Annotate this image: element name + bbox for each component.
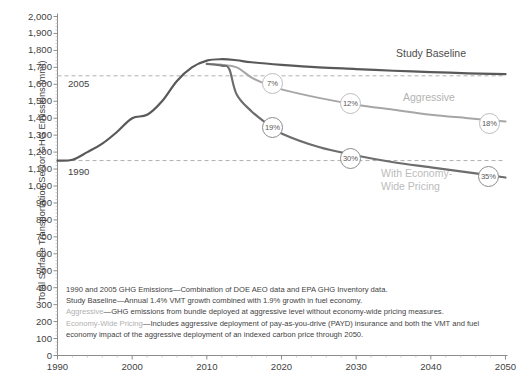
pct-bubble-aggressive-7: 7% [262,73,283,94]
series-label-study-baseline: Study Baseline [396,47,466,59]
footnote-term-aggressive: Aggressive [66,307,104,316]
pct-bubble-pricing-19: 19% [262,117,283,138]
series-label-with-economy-wide-pricing: With Economy- Wide Pricing [381,167,452,193]
pct-bubble-pricing-30: 30% [340,148,361,169]
footnote-text-aggressive: —GHG emissions from bundle deployed at a… [104,307,444,316]
ghg-emissions-line-chart: Total Surface Transportation Sector GHG … [0,0,517,386]
pct-bubble-aggressive-12: 12% [340,93,361,114]
series-lines [58,59,506,177]
reference-label-1990: 1990 [68,166,89,177]
reference-label-2005: 2005 [68,78,89,89]
footnote-line-2: Study Baseline—Annual 1.4% VMT growth co… [66,295,506,306]
footnote-line-4: Economy-Wide Pricing—Includes aggressive… [66,318,506,340]
footnote-block: 1990 and 2005 GHG Emissions—Combination … [66,284,506,340]
series-label-aggressive: Aggressive [403,91,455,103]
pct-bubble-aggressive-18: 18% [479,113,500,134]
footnote-line-1: 1990 and 2005 GHG Emissions—Combination … [66,284,506,295]
footnote-line-3: Aggressive—GHG emissions from bundle dep… [66,306,506,317]
pct-bubble-pricing-35: 35% [478,166,499,187]
footnote-term-economy-wide-pricing: Economy-Wide Pricing [66,319,143,328]
